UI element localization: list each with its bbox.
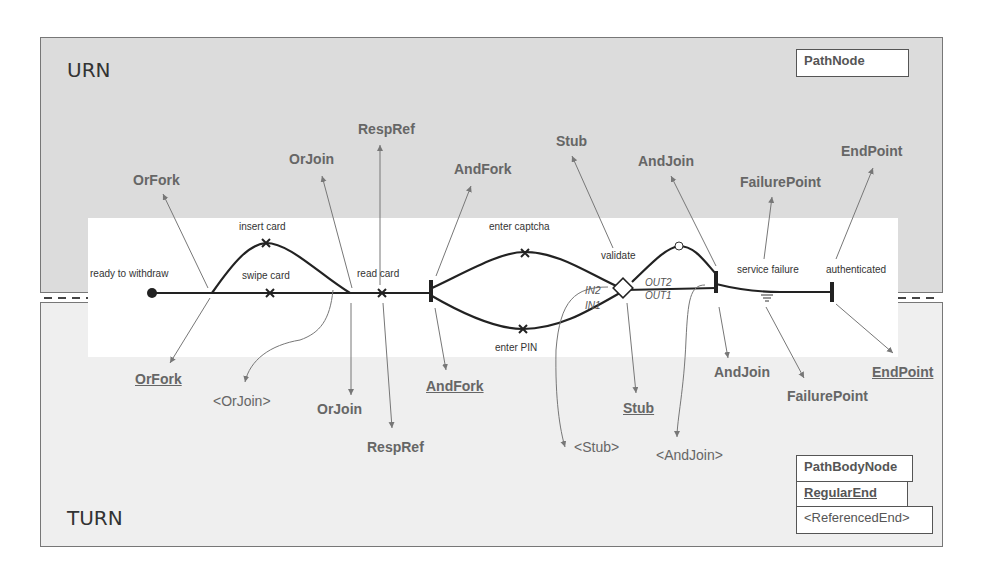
turn-arrows	[170, 285, 893, 447]
turn-label-respref: RespRef	[367, 439, 424, 455]
urn-label-andjoin: AndJoin	[638, 153, 694, 169]
label-ready-to-withdraw: ready to withdraw	[90, 268, 168, 279]
responsibility-icons	[262, 239, 529, 333]
port-out1: OUT1	[645, 290, 672, 301]
label-read-card: read card	[357, 268, 399, 279]
endpoint-bar-icon	[830, 282, 834, 302]
urn-label-stub: Stub	[556, 133, 587, 149]
urn-label-failurepoint: FailurePoint	[740, 174, 821, 190]
urn-label-orfork: OrFork	[133, 172, 180, 188]
label-insert-card: insert card	[239, 221, 286, 232]
turn-label-andjoin-ref: <AndJoin>	[656, 447, 723, 463]
port-in1: IN1	[585, 300, 601, 311]
urn-label-andfork: AndFork	[454, 161, 512, 177]
turn-label-orjoin: OrJoin	[317, 401, 362, 417]
label-validate: validate	[601, 250, 635, 261]
andfork-bar-icon	[429, 280, 433, 302]
urn-label-endpoint: EndPoint	[841, 143, 902, 159]
diagram-canvas	[0, 0, 982, 571]
port-out2: OUT2	[645, 277, 672, 288]
turn-label-stub-ref: <Stub>	[574, 439, 619, 455]
turn-label-orjoin-ref: <OrJoin>	[213, 393, 271, 409]
start-point-icon	[147, 288, 157, 298]
waiting-place-icon	[675, 242, 683, 250]
failure-point-icon	[761, 295, 773, 301]
turn-label-failurepoint: FailurePoint	[787, 388, 868, 404]
port-in2: IN2	[585, 285, 601, 296]
turn-label-andfork: AndFork	[426, 378, 484, 394]
urn-label-orjoin: OrJoin	[289, 151, 334, 167]
turn-label-stub: Stub	[623, 400, 654, 416]
andjoin-bar-icon	[714, 271, 718, 293]
ucm-path	[152, 243, 832, 329]
turn-label-endpoint: EndPoint	[872, 364, 933, 380]
urn-label-respref: RespRef	[358, 121, 415, 137]
label-authenticated: authenticated	[826, 264, 886, 275]
label-swipe-card: swipe card	[242, 270, 290, 281]
turn-label-andjoin: AndJoin	[714, 364, 770, 380]
label-enter-pin: enter PIN	[495, 342, 537, 353]
label-service-failure: service failure	[737, 264, 799, 275]
turn-label-orfork: OrFork	[135, 371, 182, 387]
label-enter-captcha: enter captcha	[489, 221, 550, 232]
